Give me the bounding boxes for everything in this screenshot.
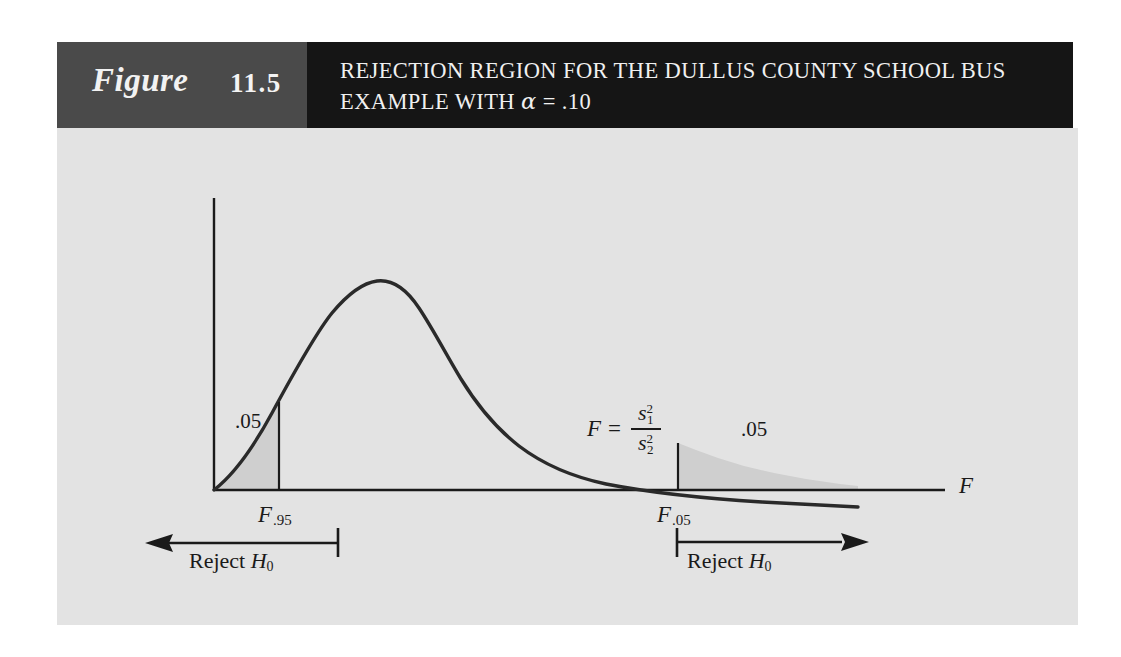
f05-var: F [657, 502, 671, 527]
f05-sub: .05 [672, 512, 691, 528]
figure-title-line-1: REJECTION REGION FOR THE DULLUS COUNTY S… [340, 56, 1040, 86]
left-reject-h-var: H [251, 548, 267, 573]
formula-equals: = [608, 416, 621, 442]
figure-number: 11.5 [230, 68, 282, 99]
f95-sub: .95 [273, 512, 292, 528]
left-reject-h-sub: 0 [267, 559, 274, 574]
formula-numerator-var: s [638, 400, 647, 425]
left-reject-text: Reject [189, 548, 251, 573]
left-reject-h0-label: Reject H0 [189, 548, 274, 575]
left-rejection-arrowhead [145, 534, 173, 552]
left-tail-area-label: .05 [235, 409, 261, 434]
f-statistic-formula: F = s21 s22 [587, 400, 661, 458]
f95-var: F [258, 502, 272, 527]
figure-title-line-2-prefix: EXAMPLE WITH [340, 89, 521, 114]
critical-value-label-f05: F.05 [657, 502, 691, 529]
right-reject-h-sub: 0 [765, 559, 772, 574]
figure-title: REJECTION REGION FOR THE DULLUS COUNTY S… [340, 56, 1040, 117]
formula-numerator-sub: 1 [647, 412, 654, 427]
x-axis-label-f: F [959, 473, 973, 499]
critical-value-label-f95: F.95 [258, 502, 292, 529]
figure-label-word: Figure [92, 62, 189, 99]
formula-lhs: F [587, 416, 601, 442]
right-reject-text: Reject [687, 548, 749, 573]
figure-body: .05 .05 F F.95 F.05 Reject H0 Reject H0 … [57, 128, 1078, 625]
formula-denominator-sub: 2 [647, 442, 654, 457]
right-reject-h-var: H [749, 548, 765, 573]
figure-title-line-2: EXAMPLE WITH α = .10 [340, 86, 1040, 117]
formula-denominator-var: s [638, 430, 647, 455]
figure-root: Figure 11.5 REJECTION REGION FOR THE DUL… [0, 0, 1121, 657]
formula-numerator: s21 [631, 400, 661, 428]
formula-fraction: s21 s22 [631, 400, 661, 458]
figure-title-line-2-suffix: = .10 [537, 89, 591, 114]
right-rejection-arrowhead [841, 533, 869, 551]
alpha-symbol: α [521, 88, 537, 114]
right-tail-area-label: .05 [741, 417, 767, 442]
formula-denominator: s22 [631, 430, 661, 458]
right-reject-h0-label: Reject H0 [687, 548, 772, 575]
right-tail-shaded-region [678, 443, 858, 490]
